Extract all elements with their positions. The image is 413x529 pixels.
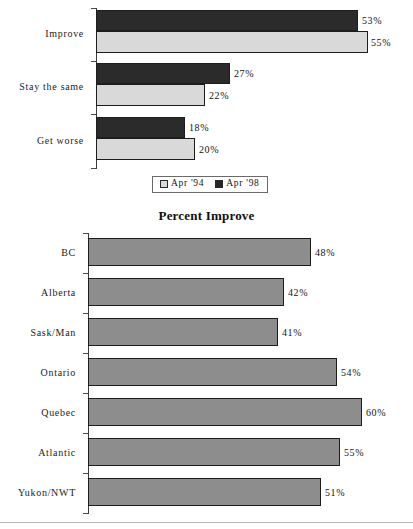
bottom-chart-tick bbox=[83, 393, 88, 394]
bottom-chart-category-label: BC bbox=[0, 248, 76, 258]
top-chart-tick bbox=[91, 61, 96, 62]
bottom-chart-bar-bc bbox=[88, 238, 311, 266]
legend-item-apr94: Apr '94 bbox=[160, 179, 204, 189]
top-chart-value-label: 22% bbox=[209, 91, 229, 101]
top-chart-value-label: 20% bbox=[199, 145, 219, 155]
top-chart-tick bbox=[91, 8, 96, 9]
bottom-chart-value-label: 55% bbox=[344, 448, 364, 458]
legend-item-apr98: Apr '98 bbox=[215, 179, 259, 189]
bottom-chart-bar-quebec bbox=[88, 398, 362, 426]
top-chart-bar-stay-apr98 bbox=[96, 63, 230, 84]
chart-page: Improve 53% 55% Stay the same 27% 22% Ge… bbox=[0, 0, 413, 529]
bottom-chart-category-label: Quebec bbox=[0, 408, 76, 418]
bottom-chart-bar-alberta bbox=[88, 278, 284, 306]
bottom-chart-tick bbox=[83, 513, 88, 514]
bottom-chart-bar-ontario bbox=[88, 358, 337, 386]
footer-divider bbox=[0, 522, 413, 523]
bottom-chart-tick bbox=[83, 233, 88, 234]
bottom-chart-value-label: 60% bbox=[366, 408, 386, 418]
bottom-chart-tick bbox=[83, 473, 88, 474]
bottom-chart-value-label: 48% bbox=[315, 248, 335, 258]
top-chart-category-label: Stay the same bbox=[0, 82, 84, 92]
percent-improve-bar-chart: Percent Improve BC 48% Alberta 42% Sask/… bbox=[0, 200, 413, 529]
top-chart-category-label: Get worse bbox=[0, 136, 84, 146]
bottom-chart-tick bbox=[83, 273, 88, 274]
bottom-chart-value-label: 42% bbox=[288, 288, 308, 298]
bottom-chart-category-label: Alberta bbox=[0, 288, 76, 298]
top-chart-value-label: 27% bbox=[234, 69, 254, 79]
legend-swatch-icon bbox=[160, 180, 168, 188]
bottom-chart-category-label: Sask/Man bbox=[0, 328, 76, 338]
bottom-chart-value-label: 51% bbox=[325, 488, 345, 498]
top-chart-value-label: 53% bbox=[362, 16, 382, 26]
bottom-chart-value-label: 54% bbox=[341, 368, 361, 378]
top-chart-bar-improve-apr94 bbox=[96, 31, 368, 53]
bottom-chart-category-label: Ontario bbox=[0, 368, 76, 378]
bottom-chart-bar-yukon-nwt bbox=[88, 478, 321, 506]
legend-label: Apr '98 bbox=[226, 179, 259, 189]
bottom-chart-tick bbox=[83, 353, 88, 354]
top-chart-bar-worse-apr94 bbox=[96, 138, 195, 160]
bottom-chart-bar-atlantic bbox=[88, 438, 340, 466]
opinion-trend-bar-chart: Improve 53% 55% Stay the same 27% 22% Ge… bbox=[0, 0, 413, 200]
bottom-chart-category-label: Atlantic bbox=[0, 448, 76, 458]
top-chart-tick bbox=[91, 168, 96, 169]
top-chart-value-label: 55% bbox=[371, 38, 391, 48]
top-chart-bar-improve-apr98 bbox=[96, 10, 358, 31]
top-chart-bar-stay-apr94 bbox=[96, 84, 205, 106]
top-chart-bar-worse-apr98 bbox=[96, 117, 185, 138]
bottom-chart-bar-saskman bbox=[88, 318, 278, 346]
top-chart-legend: Apr '94 Apr '98 bbox=[152, 176, 268, 193]
chart-title: Percent Improve bbox=[0, 209, 413, 222]
bottom-chart-tick bbox=[83, 313, 88, 314]
bottom-chart-value-label: 41% bbox=[282, 328, 302, 338]
legend-swatch-icon bbox=[215, 180, 223, 188]
top-chart-value-label: 18% bbox=[189, 123, 209, 133]
bottom-chart-category-label: Yukon/NWT bbox=[0, 488, 76, 498]
bottom-chart-tick bbox=[83, 433, 88, 434]
top-chart-tick bbox=[91, 114, 96, 115]
legend-label: Apr '94 bbox=[171, 179, 204, 189]
top-chart-category-label: Improve bbox=[0, 29, 84, 39]
